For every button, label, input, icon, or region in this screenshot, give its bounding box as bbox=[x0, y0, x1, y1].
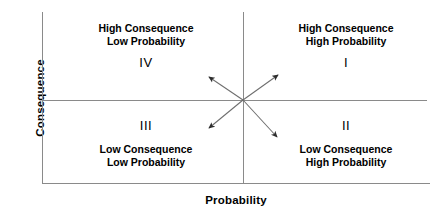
arrow-down-right bbox=[243, 100, 277, 137]
arrow-up-right bbox=[243, 75, 278, 100]
quadrant-i-numeral: I bbox=[282, 55, 410, 72]
horizontal-divider-axis bbox=[42, 100, 427, 101]
quadrant-ii: II Low Consequence High Probability bbox=[282, 118, 410, 170]
frame-left-border bbox=[42, 12, 43, 184]
quadrant-i-line2: High Probability bbox=[282, 35, 410, 48]
quadrant-i-line1: High Consequence bbox=[282, 22, 410, 35]
quadrant-iv: High Consequence Low Probability IV bbox=[82, 22, 210, 74]
frame-bottom-border bbox=[42, 183, 430, 184]
quadrant-iv-numeral: IV bbox=[82, 55, 210, 72]
quadrant-iv-line2: Low Probability bbox=[82, 35, 210, 48]
quadrant-i: High Consequence High Probability I bbox=[282, 22, 410, 74]
quadrant-ii-line1: Low Consequence bbox=[282, 143, 410, 156]
risk-matrix-diagram: Consequence Probability High Consequence… bbox=[0, 0, 447, 219]
quadrant-iii: III Low Consequence Low Probability bbox=[82, 118, 210, 170]
quadrant-iii-line2: Low Probability bbox=[82, 156, 210, 169]
vertical-divider-axis bbox=[243, 12, 244, 183]
y-axis-title: Consequence bbox=[34, 18, 46, 178]
quadrant-iii-numeral: III bbox=[82, 118, 210, 135]
quadrant-iv-line1: High Consequence bbox=[82, 22, 210, 35]
x-axis-title: Probability bbox=[42, 194, 430, 206]
quadrant-iii-line1: Low Consequence bbox=[82, 143, 210, 156]
quadrant-ii-line2: High Probability bbox=[282, 156, 410, 169]
arrow-down-left bbox=[209, 100, 243, 128]
quadrant-ii-numeral: II bbox=[282, 118, 410, 135]
arrow-up-left bbox=[209, 77, 243, 100]
